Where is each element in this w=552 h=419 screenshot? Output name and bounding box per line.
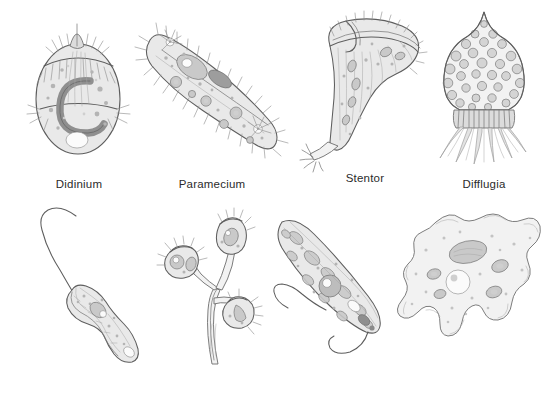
caption-didinium: Didinium xyxy=(18,178,140,190)
protozoa-figure: Didinium xyxy=(0,0,552,419)
amoeba-illustration xyxy=(396,204,544,372)
caption-paramecium: Paramecium xyxy=(132,178,292,190)
organism-carchesium: Carchesium xyxy=(152,204,272,372)
organism-stentor: Stentor xyxy=(300,0,430,166)
paramecium-illustration xyxy=(132,6,292,166)
zooid-upper-right xyxy=(216,208,255,254)
organism-paramecium: Paramecium xyxy=(132,6,292,166)
organism-difflugia: Difflugia xyxy=(428,6,540,166)
trypanosoma-illustration xyxy=(14,204,154,372)
caption-difflugia: Difflugia xyxy=(428,178,540,190)
stentor-illustration xyxy=(300,0,430,166)
didinium-illustration xyxy=(18,6,140,166)
zooid-lower-right xyxy=(223,289,263,334)
difflugia-illustration xyxy=(428,6,540,166)
euglena-illustration xyxy=(268,204,398,372)
organism-didinium: Didinium xyxy=(18,6,140,166)
organism-trypanosoma: Trypanosoma xyxy=(14,204,154,372)
caption-stentor: Stentor xyxy=(300,172,430,184)
carchesium-illustration xyxy=(152,204,272,372)
organism-amoeba: Amoeba xyxy=(396,204,544,372)
organism-euglena: Euglena xyxy=(268,204,398,372)
